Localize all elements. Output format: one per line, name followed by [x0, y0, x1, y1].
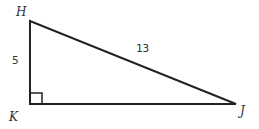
right-angle-marker — [30, 93, 42, 104]
triangle-figure — [0, 0, 259, 129]
triangle-hkj — [30, 21, 236, 104]
vertex-label-j: J — [240, 105, 245, 117]
vertex-label-k: K — [9, 111, 18, 123]
side-label-hj: 13 — [136, 43, 149, 54]
side-label-hk: 5 — [12, 55, 19, 66]
vertex-label-h: H — [16, 6, 26, 18]
